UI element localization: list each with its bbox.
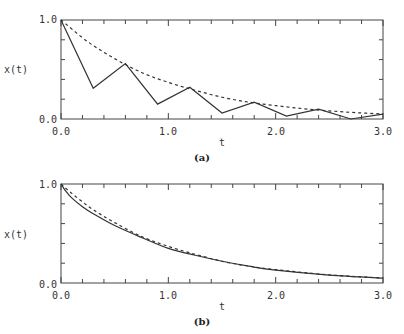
x-tick-label-a-2: 2.0 bbox=[267, 126, 285, 137]
x-tick-label-b-1: 1.0 bbox=[159, 290, 177, 301]
series-dashed-line bbox=[61, 20, 383, 114]
plot-frame-b bbox=[61, 184, 383, 283]
y-tick-label-bottom-a: 0.0 bbox=[39, 114, 57, 125]
x-axis-label-a: t bbox=[219, 137, 225, 148]
series-dashed-line bbox=[61, 184, 383, 278]
y-axis-label-b: x(t) bbox=[4, 229, 28, 240]
x-axis-label-b: t bbox=[219, 301, 225, 312]
y-tick-label-top-b: 1.0 bbox=[39, 179, 57, 190]
y-tick-label-bottom-b: 0.0 bbox=[39, 279, 57, 290]
plot-series-a bbox=[61, 20, 383, 119]
panel-a: x(t) 1.0 0.0 0.0 1.0 2.0 3.0 t (a) bbox=[4, 14, 392, 163]
plot-frame-a bbox=[61, 20, 383, 119]
x-tick-label-a-0: 0.0 bbox=[52, 126, 70, 137]
y-axis-label-a: x(t) bbox=[4, 64, 28, 75]
y-tick-label-top-a: 1.0 bbox=[39, 14, 57, 25]
x-tick-label-a-3: 3.0 bbox=[374, 126, 392, 137]
figure: x(t) 1.0 0.0 0.0 1.0 2.0 3.0 t (a) x(t) … bbox=[0, 0, 404, 334]
panel-b: x(t) 1.0 0.0 0.0 1.0 2.0 3.0 t (b) bbox=[4, 179, 392, 327]
series-solid-line bbox=[61, 184, 383, 278]
x-tick-label-b-3: 3.0 bbox=[374, 290, 392, 301]
plot-series-b bbox=[61, 184, 383, 278]
x-tick-label-b-0: 0.0 bbox=[52, 290, 70, 301]
plot-border bbox=[61, 20, 383, 119]
x-tick-label-a-1: 1.0 bbox=[159, 126, 177, 137]
x-tick-label-b-2: 2.0 bbox=[267, 290, 285, 301]
panel-caption-b: (b) bbox=[194, 316, 210, 327]
series-solid-line bbox=[61, 20, 383, 119]
plot-border bbox=[61, 184, 383, 283]
panel-caption-a: (a) bbox=[194, 152, 210, 163]
